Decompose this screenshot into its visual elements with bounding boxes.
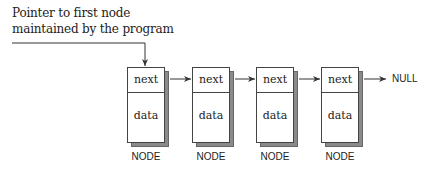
next-field: next	[128, 68, 164, 93]
data-field: data	[193, 93, 229, 142]
list-node-2: next data	[192, 67, 230, 143]
data-field: data	[322, 93, 358, 142]
node-box: next data	[256, 67, 294, 143]
data-field: data	[128, 93, 164, 142]
list-node-4: next data	[321, 67, 359, 143]
next-field: next	[322, 68, 358, 93]
data-field: data	[257, 93, 293, 142]
node-caption-3: NODE	[250, 151, 300, 162]
node-box: next data	[127, 67, 165, 143]
list-node-3: next data	[256, 67, 294, 143]
list-node-1: next data	[127, 67, 165, 143]
node-box: next data	[321, 67, 359, 143]
next-field: next	[257, 68, 293, 93]
node-caption-2: NODE	[186, 151, 236, 162]
next-field: next	[193, 68, 229, 93]
null-terminator: NULL	[392, 73, 418, 84]
node-box: next data	[192, 67, 230, 143]
head-pointer-arrow	[12, 43, 145, 66]
node-caption-1: NODE	[121, 151, 171, 162]
node-caption-4: NODE	[315, 151, 365, 162]
